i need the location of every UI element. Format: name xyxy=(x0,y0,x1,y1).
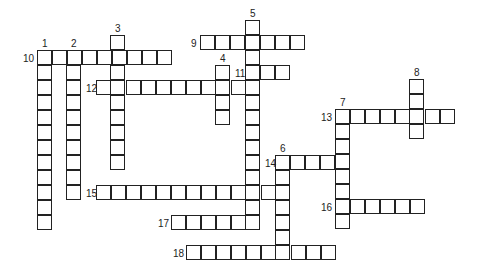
crossword-cell[interactable] xyxy=(126,185,141,200)
crossword-cell[interactable] xyxy=(335,169,350,184)
crossword-cell[interactable] xyxy=(97,50,112,65)
crossword-cell[interactable] xyxy=(141,80,156,95)
crossword-cell[interactable] xyxy=(66,110,81,125)
crossword-cell[interactable] xyxy=(216,215,231,230)
crossword-cell[interactable] xyxy=(231,185,246,200)
crossword-cell[interactable] xyxy=(245,185,260,200)
crossword-cell[interactable] xyxy=(230,35,245,50)
crossword-cell[interactable] xyxy=(275,215,290,230)
crossword-cell[interactable] xyxy=(305,155,320,170)
crossword-cell[interactable] xyxy=(156,80,171,95)
crossword-cell[interactable] xyxy=(275,200,290,215)
crossword-cell[interactable] xyxy=(245,35,260,50)
crossword-cell[interactable] xyxy=(37,65,52,80)
crossword-cell[interactable] xyxy=(245,170,260,185)
crossword-cell[interactable] xyxy=(409,79,424,94)
crossword-cell[interactable] xyxy=(110,155,125,170)
crossword-cell[interactable] xyxy=(110,80,125,95)
crossword-cell[interactable] xyxy=(320,155,335,170)
crossword-cell[interactable] xyxy=(231,215,246,230)
crossword-cell[interactable] xyxy=(245,110,260,125)
crossword-cell[interactable] xyxy=(245,65,260,80)
crossword-cell[interactable] xyxy=(245,50,260,65)
crossword-cell[interactable] xyxy=(110,35,125,50)
crossword-cell[interactable] xyxy=(37,110,52,125)
crossword-cell[interactable] xyxy=(66,65,81,80)
crossword-cell[interactable] xyxy=(215,80,230,95)
crossword-cell[interactable] xyxy=(66,185,81,200)
crossword-cell[interactable] xyxy=(171,215,186,230)
crossword-cell[interactable] xyxy=(216,245,231,260)
crossword-cell[interactable] xyxy=(380,109,395,124)
crossword-cell[interactable] xyxy=(201,245,216,260)
crossword-cell[interactable] xyxy=(395,109,410,124)
crossword-cell[interactable] xyxy=(37,125,52,140)
crossword-cell[interactable] xyxy=(409,94,424,109)
crossword-cell[interactable] xyxy=(200,35,215,50)
crossword-cell[interactable] xyxy=(409,109,424,124)
crossword-cell[interactable] xyxy=(110,125,125,140)
crossword-cell[interactable] xyxy=(395,199,410,214)
crossword-cell[interactable] xyxy=(291,245,306,260)
crossword-cell[interactable] xyxy=(260,35,275,50)
crossword-cell[interactable] xyxy=(335,124,350,139)
crossword-cell[interactable] xyxy=(409,124,424,139)
crossword-cell[interactable] xyxy=(66,140,81,155)
crossword-cell[interactable] xyxy=(96,185,111,200)
crossword-cell[interactable] xyxy=(410,199,425,214)
crossword-cell[interactable] xyxy=(126,80,141,95)
crossword-cell[interactable] xyxy=(186,185,201,200)
crossword-cell[interactable] xyxy=(231,80,246,95)
crossword-cell[interactable] xyxy=(37,170,52,185)
crossword-cell[interactable] xyxy=(37,155,52,170)
crossword-cell[interactable] xyxy=(335,139,350,154)
crossword-cell[interactable] xyxy=(186,80,201,95)
crossword-cell[interactable] xyxy=(365,109,380,124)
crossword-cell[interactable] xyxy=(290,155,305,170)
crossword-cell[interactable] xyxy=(440,109,455,124)
crossword-cell[interactable] xyxy=(306,245,321,260)
crossword-cell[interactable] xyxy=(245,125,260,140)
crossword-cell[interactable] xyxy=(335,184,350,199)
crossword-cell[interactable] xyxy=(201,185,216,200)
crossword-cell[interactable] xyxy=(66,155,81,170)
crossword-cell[interactable] xyxy=(245,215,260,230)
crossword-cell[interactable] xyxy=(37,215,52,230)
crossword-cell[interactable] xyxy=(321,245,336,260)
crossword-cell[interactable] xyxy=(335,109,350,124)
crossword-cell[interactable] xyxy=(127,50,142,65)
crossword-cell[interactable] xyxy=(37,80,52,95)
crossword-cell[interactable] xyxy=(275,65,290,80)
crossword-cell[interactable] xyxy=(245,140,260,155)
crossword-cell[interactable] xyxy=(275,245,290,260)
crossword-cell[interactable] xyxy=(245,95,260,110)
crossword-cell[interactable] xyxy=(110,65,125,80)
crossword-cell[interactable] xyxy=(67,50,82,65)
crossword-cell[interactable] xyxy=(216,185,231,200)
crossword-cell[interactable] xyxy=(350,199,365,214)
crossword-cell[interactable] xyxy=(245,20,260,35)
crossword-cell[interactable] xyxy=(110,140,125,155)
crossword-cell[interactable] xyxy=(260,65,275,80)
crossword-cell[interactable] xyxy=(142,50,157,65)
crossword-cell[interactable] xyxy=(335,154,350,169)
crossword-cell[interactable] xyxy=(335,199,350,214)
crossword-cell[interactable] xyxy=(66,170,81,185)
crossword-cell[interactable] xyxy=(37,95,52,110)
crossword-cell[interactable] xyxy=(425,109,440,124)
crossword-cell[interactable] xyxy=(201,80,216,95)
crossword-cell[interactable] xyxy=(66,125,81,140)
crossword-cell[interactable] xyxy=(171,80,186,95)
crossword-cell[interactable] xyxy=(215,95,230,110)
crossword-cell[interactable] xyxy=(275,35,290,50)
crossword-cell[interactable] xyxy=(365,199,380,214)
crossword-cell[interactable] xyxy=(245,200,260,215)
crossword-cell[interactable] xyxy=(186,245,201,260)
crossword-cell[interactable] xyxy=(275,155,290,170)
crossword-cell[interactable] xyxy=(112,50,127,65)
crossword-cell[interactable] xyxy=(66,80,81,95)
crossword-cell[interactable] xyxy=(245,155,260,170)
crossword-cell[interactable] xyxy=(201,215,216,230)
crossword-cell[interactable] xyxy=(246,245,261,260)
crossword-cell[interactable] xyxy=(110,95,125,110)
